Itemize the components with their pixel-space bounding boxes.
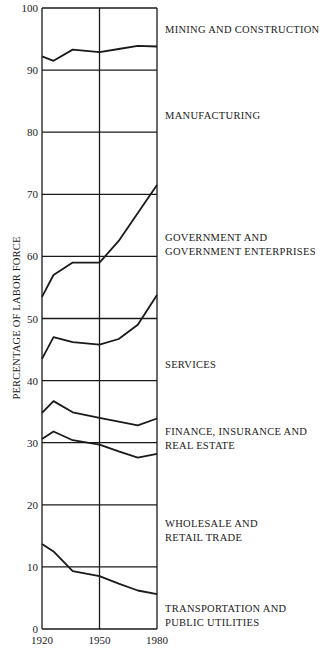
y-tick-label: 100	[22, 2, 39, 14]
y-tick-label: 60	[27, 250, 39, 262]
label-services: SERVICES	[165, 358, 216, 372]
x-tick-label: 1980	[146, 634, 169, 646]
chart-grid	[42, 8, 157, 629]
y-tick-label: 10	[27, 561, 39, 573]
y-tick-label: 20	[27, 499, 39, 511]
y-tick-label: 40	[27, 375, 39, 387]
label-manufacturing: MANUFACTURING	[165, 109, 260, 123]
y-tick-label: 70	[27, 188, 39, 200]
label-mining-construction: MINING AND CONSTRUCTION	[165, 23, 319, 37]
stacked-labor-chart: 0102030405060708090100 192019501980 PERC…	[0, 0, 336, 649]
label-government: GOVERNMENT AND GOVERNMENT ENTERPRISES	[165, 231, 316, 258]
label-wholesale-retail: WHOLESALE AND RETAIL TRADE	[165, 517, 258, 544]
x-tick-label: 1950	[89, 634, 112, 646]
label-finance: FINANCE, INSURANCE AND REAL ESTATE	[165, 425, 307, 452]
x-axis-ticks: 192019501980	[31, 634, 169, 646]
y-tick-label: 30	[27, 437, 39, 449]
y-tick-label: 80	[27, 126, 39, 138]
y-tick-label: 50	[27, 313, 39, 325]
label-transportation: TRANSPORTATION AND PUBLIC UTILITIES	[165, 602, 286, 629]
y-axis-label: PERCENTAGE OF LABOR FORCE	[11, 236, 22, 399]
y-tick-label: 90	[27, 64, 39, 76]
y-axis-ticks: 0102030405060708090100	[22, 2, 39, 635]
x-tick-label: 1920	[31, 634, 54, 646]
